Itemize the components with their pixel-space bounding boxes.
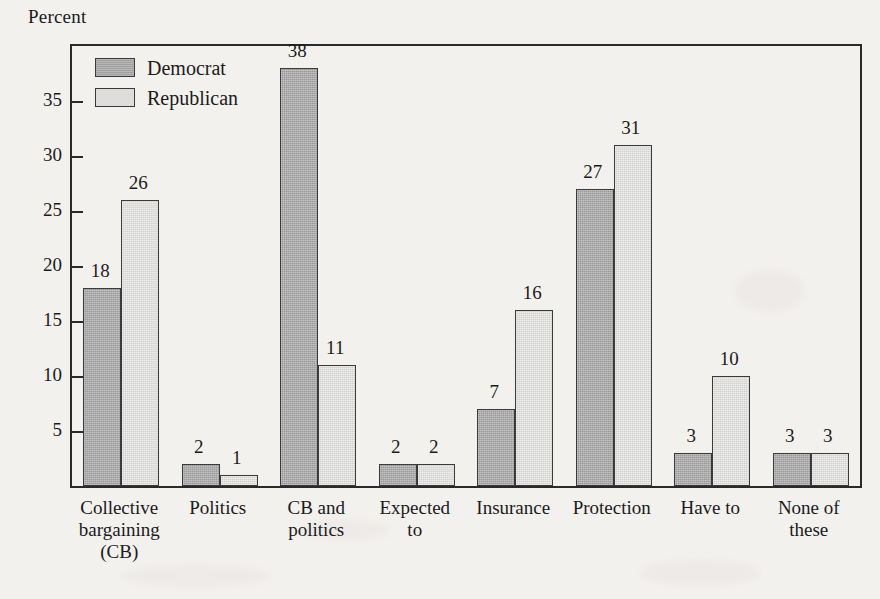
legend-label-democrat: Democrat xyxy=(147,58,226,78)
x-axis-category-label: Protection xyxy=(557,497,668,519)
y-axis-tick-label: 25 xyxy=(12,200,62,219)
y-axis-tick xyxy=(72,101,83,103)
bar-value-label: 2 xyxy=(405,437,463,456)
bar-value-label: 26 xyxy=(109,173,167,192)
bar-value-label: 18 xyxy=(71,261,129,280)
bar-democrat-4 xyxy=(477,409,515,486)
bar-value-label: 3 xyxy=(662,426,720,445)
y-axis-tick xyxy=(72,156,83,158)
democrat-swatch-icon xyxy=(95,58,135,77)
bar-value-label: 16 xyxy=(503,283,561,302)
y-axis-tick xyxy=(72,376,83,378)
x-axis-category-label: Expected to xyxy=(360,497,471,541)
bar-democrat-5 xyxy=(576,189,614,486)
x-axis-category-label: Politics xyxy=(163,497,274,519)
chart-legend: Democrat Republican xyxy=(95,54,238,114)
y-axis-tick xyxy=(72,431,83,433)
bar-democrat-7 xyxy=(773,453,811,486)
x-axis-category-label: Have to xyxy=(655,497,766,519)
bar-democrat-0 xyxy=(83,288,121,486)
y-axis-tick xyxy=(72,321,83,323)
y-axis-title: Percent xyxy=(28,6,86,28)
bar-democrat-1 xyxy=(182,464,220,486)
x-axis-category-label: Insurance xyxy=(458,497,569,519)
bar-republican-3 xyxy=(417,464,455,486)
y-axis-tick xyxy=(72,211,83,213)
bar-republican-2 xyxy=(318,365,356,486)
bar-value-label: 27 xyxy=(564,162,622,181)
bar-value-label: 1 xyxy=(208,448,266,467)
paper-blemish xyxy=(120,565,270,587)
bar-republican-7 xyxy=(811,453,849,486)
bar-democrat-2 xyxy=(280,68,318,486)
paper-blemish xyxy=(640,560,760,586)
bar-republican-5 xyxy=(614,145,652,486)
bar-value-label: 11 xyxy=(306,338,364,357)
bar-republican-0 xyxy=(121,200,159,486)
y-axis-tick-label: 30 xyxy=(12,145,62,164)
x-axis-category-label: None of these xyxy=(754,497,865,541)
y-axis-tick-label: 35 xyxy=(12,90,62,109)
y-axis-tick-label: 20 xyxy=(12,255,62,274)
bar-chart-figure: Percent Democrat Republican 510152025303… xyxy=(0,0,880,599)
bar-democrat-6 xyxy=(674,453,712,486)
bar-democrat-3 xyxy=(379,464,417,486)
bar-value-label: 31 xyxy=(602,118,660,137)
bar-value-label: 7 xyxy=(465,382,523,401)
y-axis-tick-label: 10 xyxy=(12,365,62,384)
y-axis-tick-label: 5 xyxy=(12,420,62,439)
x-axis-category-label: Collective bargaining (CB) xyxy=(64,497,175,563)
republican-swatch-icon xyxy=(95,88,135,107)
bar-value-label: 3 xyxy=(799,426,857,445)
bar-value-label: 10 xyxy=(700,349,758,368)
x-axis-category-label: CB and politics xyxy=(261,497,372,541)
bar-republican-1 xyxy=(220,475,258,486)
y-axis-tick-label: 15 xyxy=(12,310,62,329)
legend-item-democrat: Democrat xyxy=(95,54,238,81)
legend-item-republican: Republican xyxy=(95,84,238,111)
bar-value-label: 38 xyxy=(268,41,326,60)
legend-label-republican: Republican xyxy=(147,88,238,108)
